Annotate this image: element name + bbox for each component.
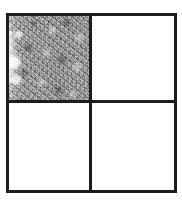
texture-grain-overlay: [9, 16, 89, 100]
quadrant-grid: mottled gray noise white white white: [6, 13, 177, 193]
quadrant-bottom-right[interactable]: white: [92, 103, 175, 190]
quadrant-top-left-label: mottled gray noise: [9, 16, 10, 17]
quadrant-top-right-label: white: [92, 16, 93, 17]
quadrant-bottom-right-label: white: [92, 103, 93, 104]
quadrant-top-left[interactable]: mottled gray noise: [9, 16, 92, 103]
texture-light-streak: [9, 31, 18, 83]
figure-title: Two-by-two quadrant grid with a single t…: [0, 0, 1, 1]
quadrant-bottom-left-label: white: [9, 103, 10, 104]
figure-root: Two-by-two quadrant grid with a single t…: [0, 0, 182, 200]
quadrant-top-right[interactable]: white: [92, 16, 175, 103]
quadrant-bottom-left[interactable]: white: [9, 103, 92, 190]
